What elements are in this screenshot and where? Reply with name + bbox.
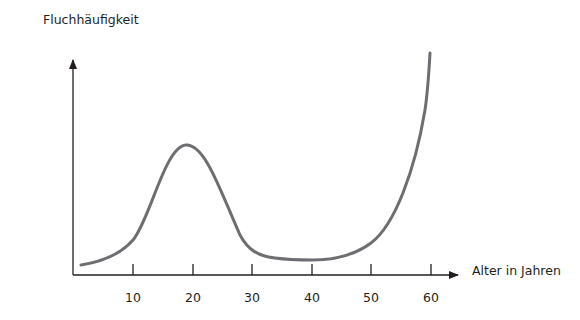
x-tick-label-10: 10 (118, 290, 148, 305)
x-axis-label: Alter in Jahren (472, 263, 561, 278)
y-axis-label: Fluchhäufigkeit (43, 12, 139, 27)
x-tick-label-50: 50 (356, 290, 386, 305)
data-curve (81, 53, 430, 265)
x-tick-label-20: 20 (178, 290, 208, 305)
x-tick-label-40: 40 (297, 290, 327, 305)
x-tick-label-30: 30 (237, 290, 267, 305)
x-tick-label-60: 60 (416, 290, 446, 305)
x-ticks (133, 264, 431, 275)
chart: Fluchhäufigkeit Alter in Jahren 10 20 30… (0, 0, 580, 320)
